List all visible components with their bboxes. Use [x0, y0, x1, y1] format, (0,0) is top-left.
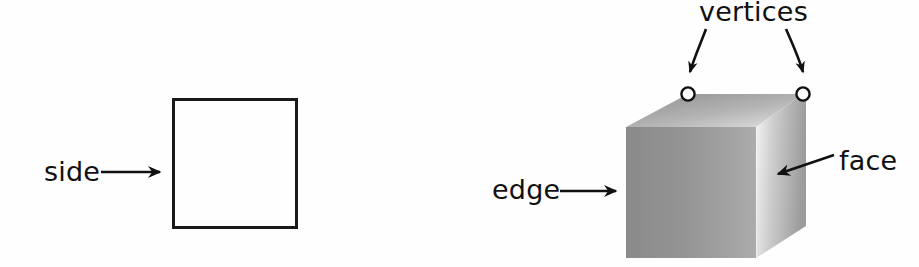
vertices-arrow-right	[786, 29, 803, 72]
square-shape	[174, 100, 297, 228]
face-label: face	[839, 145, 897, 176]
vertices-label-group: vertices	[690, 0, 808, 72]
edge-label-group: edge	[492, 174, 616, 205]
side-label-group: side	[44, 156, 160, 187]
vertex-marker-left-icon	[681, 87, 694, 100]
cube-group	[626, 94, 806, 258]
vertices-arrow-left	[690, 29, 706, 72]
vertices-label: vertices	[699, 0, 808, 27]
geometry-figure: side vertices edge	[0, 0, 919, 267]
edge-label: edge	[492, 174, 560, 205]
cube-front-face	[626, 127, 756, 258]
side-label: side	[44, 156, 100, 187]
square-group	[174, 100, 297, 228]
vertex-marker-right-icon	[796, 87, 809, 100]
figure-canvas: side vertices edge	[0, 0, 919, 267]
